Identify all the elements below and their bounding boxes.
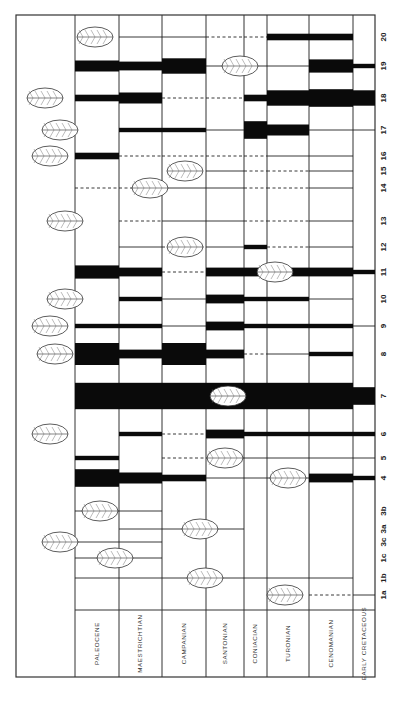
elliptic-leaf-icon bbox=[42, 120, 78, 140]
range-bar bbox=[267, 383, 309, 409]
range-bar bbox=[244, 121, 267, 139]
range-bar bbox=[267, 125, 309, 136]
range-bar bbox=[267, 34, 309, 41]
palmate-leaf-icon bbox=[132, 178, 168, 198]
serrate-elliptic-leaf-icon bbox=[47, 289, 83, 309]
range-bar bbox=[75, 456, 119, 460]
stage-label: EARLY CRETACEOUS bbox=[360, 607, 367, 681]
fan-frond-icon bbox=[182, 519, 218, 539]
stage-label: CONIACIAN bbox=[251, 624, 258, 664]
range-bar bbox=[267, 90, 309, 105]
peltate-round-leaf-icon bbox=[207, 448, 243, 468]
range-bar bbox=[309, 432, 353, 436]
range-bar bbox=[353, 432, 375, 436]
range-bar bbox=[75, 95, 119, 102]
stage-label: SANTONIAN bbox=[221, 623, 228, 664]
taxon-label: 18 bbox=[379, 93, 388, 102]
range-bar bbox=[309, 34, 353, 41]
stage-label: TURONIAN bbox=[284, 625, 291, 662]
range-bar bbox=[309, 59, 353, 72]
range-bar bbox=[75, 265, 119, 278]
range-bar bbox=[309, 89, 353, 107]
range-bar bbox=[75, 469, 119, 487]
taxon-label: 4 bbox=[379, 475, 388, 480]
range-bar bbox=[206, 430, 244, 439]
taxon-label: 7 bbox=[379, 393, 388, 398]
range-bar bbox=[162, 383, 206, 409]
pinnate-frond-icon bbox=[82, 501, 118, 521]
pinnatifid-leaf-icon bbox=[167, 237, 203, 257]
range-bars bbox=[75, 34, 375, 595]
range-bar bbox=[244, 95, 267, 102]
range-bar bbox=[309, 352, 353, 356]
range-bar bbox=[267, 324, 309, 328]
taxon-label: 6 bbox=[379, 431, 388, 436]
range-bar bbox=[353, 270, 375, 274]
pinnatifid-leaf-icon bbox=[257, 262, 293, 282]
range-bar bbox=[119, 93, 162, 104]
taxon-label: 8 bbox=[379, 351, 388, 356]
range-bar bbox=[206, 350, 244, 359]
linear-leaf-icon bbox=[97, 548, 133, 568]
range-bar bbox=[75, 343, 119, 365]
strap-leaf-icon bbox=[267, 585, 303, 605]
range-bar bbox=[75, 324, 119, 328]
fan-palm-icon bbox=[42, 532, 78, 552]
elliptic-leaf-icon bbox=[32, 146, 68, 166]
range-bar bbox=[353, 90, 375, 105]
range-bar bbox=[267, 297, 309, 301]
range-bar bbox=[119, 350, 162, 359]
taxon-label: 11 bbox=[379, 267, 388, 276]
pinnate-chevron-leaf-icon bbox=[77, 27, 113, 47]
range-bar bbox=[309, 383, 353, 409]
range-bar bbox=[119, 383, 162, 409]
range-bar bbox=[206, 268, 244, 277]
range-bar bbox=[119, 62, 162, 71]
range-bar bbox=[244, 245, 267, 249]
taxon-label: 15 bbox=[379, 166, 388, 175]
taxon-label: 14 bbox=[379, 183, 388, 192]
range-bar bbox=[267, 432, 309, 436]
taxon-label: 1a bbox=[379, 590, 388, 599]
range-bar bbox=[244, 297, 267, 301]
range-bar bbox=[244, 324, 267, 328]
range-bar bbox=[309, 268, 353, 277]
taxon-label: 10 bbox=[379, 294, 388, 303]
range-bar bbox=[119, 473, 162, 484]
range-bar bbox=[353, 476, 375, 480]
taxon-label: 9 bbox=[379, 323, 388, 328]
stage-label: CENOMANIAN bbox=[327, 620, 334, 668]
range-bar bbox=[162, 58, 206, 73]
range-chart: PALEOCENEMAESTRICHTIANCAMPANIANSANTONIAN… bbox=[0, 0, 406, 712]
ovate-leaf-icon bbox=[32, 424, 68, 444]
range-bar bbox=[353, 387, 375, 405]
range-bar bbox=[353, 64, 375, 68]
leaf-icons bbox=[27, 27, 306, 605]
range-bar bbox=[206, 295, 244, 304]
serrate-ovate-leaf-icon bbox=[32, 316, 68, 336]
range-bar bbox=[119, 128, 162, 132]
range-bar bbox=[119, 324, 162, 328]
range-bar bbox=[244, 432, 267, 436]
range-bar bbox=[309, 324, 353, 328]
range-bar bbox=[75, 61, 119, 72]
entire-elliptic-leaf-icon bbox=[210, 386, 246, 406]
trilobed-leaf-icon bbox=[27, 88, 63, 108]
range-bar bbox=[119, 432, 162, 436]
taxon-label: 3b bbox=[379, 506, 388, 515]
taxon-label: 12 bbox=[379, 242, 388, 251]
taxon-label: 1c bbox=[379, 553, 388, 562]
round-cordate-leaf-icon bbox=[222, 56, 258, 76]
taxon-label: 17 bbox=[379, 125, 388, 134]
taxon-label: 3c bbox=[379, 537, 388, 546]
serrate-elliptic-leaf-icon bbox=[37, 344, 73, 364]
taxon-label: 16 bbox=[379, 151, 388, 160]
taxon-label: 20 bbox=[379, 32, 388, 41]
taxon-label: 1b bbox=[379, 573, 388, 582]
stage-label: PALEOCENE bbox=[93, 622, 100, 665]
small-clasping-leaf-icon bbox=[167, 161, 203, 181]
cordate-leaf-icon bbox=[270, 468, 306, 488]
bilobed-leaf-icon bbox=[47, 211, 83, 231]
range-bar bbox=[244, 383, 267, 409]
range-bar bbox=[119, 297, 162, 301]
